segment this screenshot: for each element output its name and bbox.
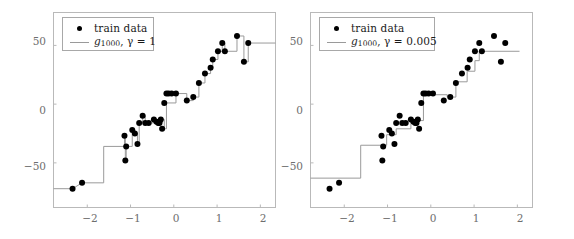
data-point xyxy=(379,158,385,164)
data-point xyxy=(79,180,85,186)
data-point xyxy=(208,65,214,71)
legend-label-step-fit: g1000, γ = 1 xyxy=(90,35,156,48)
data-point xyxy=(245,40,251,46)
data-point xyxy=(380,143,386,149)
data-point xyxy=(161,100,167,106)
data-point xyxy=(447,94,453,100)
y-tick-label-50-right: 50 xyxy=(279,36,303,47)
data-point xyxy=(416,126,422,132)
data-point xyxy=(327,186,333,192)
y-tick-label-minus50-right: −50 xyxy=(273,161,303,172)
legend-g-symbol: g xyxy=(94,35,101,47)
data-point xyxy=(397,113,403,119)
data-point xyxy=(472,48,478,54)
y-tick-label-0-right: 0 xyxy=(279,105,303,116)
data-point xyxy=(122,158,128,164)
data-point xyxy=(498,59,504,65)
data-point xyxy=(465,65,471,71)
data-point xyxy=(476,40,482,46)
x-tick-label-2-right: 2 xyxy=(509,213,531,224)
y-tick-label-50-left: 50 xyxy=(22,36,46,47)
data-point xyxy=(391,141,397,147)
legend-right: train data g1000, γ = 0.005 xyxy=(319,17,435,51)
data-point xyxy=(184,98,190,104)
data-point xyxy=(158,116,164,122)
y-tick-label-minus50-left: −50 xyxy=(16,161,46,172)
data-point xyxy=(453,80,459,86)
legend-gamma-tail: , γ = 1 xyxy=(120,35,156,47)
x-tick-label-minus2-right: −2 xyxy=(336,213,358,224)
data-point xyxy=(123,143,129,149)
data-point xyxy=(502,40,508,46)
data-point xyxy=(146,120,152,126)
data-point xyxy=(441,98,447,104)
data-point xyxy=(159,126,165,132)
x-tick-label-1-left: 1 xyxy=(208,213,230,224)
x-tick-label-0-left: 0 xyxy=(165,213,187,224)
data-point xyxy=(196,80,202,86)
panel-left: 50 0 −50 −2 −1 0 1 2 train data g1000, γ… xyxy=(0,0,287,239)
data-point xyxy=(479,48,485,54)
x-tick-label-minus1-right: −1 xyxy=(379,213,401,224)
data-point xyxy=(190,94,196,100)
legend-left: train data g1000, γ = 1 xyxy=(62,17,154,51)
legend-entry-train-data-left: train data xyxy=(68,21,147,35)
data-point xyxy=(241,59,247,65)
data-point xyxy=(430,91,436,97)
legend-entry-step-fit-left: g1000, γ = 1 xyxy=(68,35,147,49)
step-fit-line-left xyxy=(54,36,276,189)
legend-line-icon xyxy=(68,42,90,43)
x-tick-label-0-right: 0 xyxy=(422,213,444,224)
data-point xyxy=(378,133,384,139)
legend-label-train-data: train data xyxy=(347,22,404,34)
legend-dot-icon xyxy=(325,26,347,31)
data-point xyxy=(234,33,240,39)
legend-entry-step-fit-right: g1000, γ = 0.005 xyxy=(325,35,428,49)
data-point xyxy=(121,133,127,139)
train-data-points-right xyxy=(327,33,509,192)
data-point xyxy=(219,40,225,46)
data-point xyxy=(173,91,179,97)
legend-label-train-data: train data xyxy=(90,22,147,34)
x-tick-label-2-left: 2 xyxy=(252,213,274,224)
data-point xyxy=(491,33,497,39)
legend-g-subscript: 1000 xyxy=(358,40,377,49)
legend-g-symbol: g xyxy=(351,35,358,47)
legend-dot-icon xyxy=(68,26,90,31)
x-tick-label-minus1-left: −1 xyxy=(122,213,144,224)
data-point xyxy=(136,120,142,126)
panel-right: 50 0 −50 −2 −1 0 1 2 train data g1000, γ… xyxy=(287,0,574,239)
data-point xyxy=(467,56,473,62)
legend-g-subscript: 1000 xyxy=(101,40,120,49)
data-point xyxy=(70,186,76,192)
y-tick-label-0-left: 0 xyxy=(22,105,46,116)
data-point xyxy=(132,130,138,136)
data-point xyxy=(336,180,342,186)
data-point xyxy=(418,100,424,106)
data-point xyxy=(134,141,140,147)
step-fit-line-right xyxy=(311,51,520,178)
x-tick-label-1-right: 1 xyxy=(465,213,487,224)
data-point xyxy=(403,120,409,126)
x-tick-label-minus2-left: −2 xyxy=(79,213,101,224)
data-point xyxy=(389,130,395,136)
train-data-points-left xyxy=(70,33,252,192)
data-point xyxy=(459,71,465,77)
data-point xyxy=(140,113,146,119)
data-point xyxy=(215,48,221,54)
legend-entry-train-data-right: train data xyxy=(325,21,428,35)
data-point xyxy=(393,120,399,126)
data-point xyxy=(415,116,421,122)
legend-label-step-fit: g1000, γ = 0.005 xyxy=(347,35,437,48)
figure-root: 50 0 −50 −2 −1 0 1 2 train data g1000, γ… xyxy=(0,0,574,239)
data-point xyxy=(202,71,208,77)
data-point xyxy=(210,56,216,62)
data-point xyxy=(222,48,228,54)
legend-gamma-tail: , γ = 0.005 xyxy=(377,35,437,47)
legend-line-icon xyxy=(325,42,347,43)
